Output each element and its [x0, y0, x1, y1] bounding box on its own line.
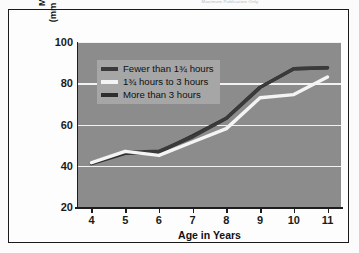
legend-label-1: 1¾ hours to 3 hours [123, 76, 208, 88]
x-axis-label: Age in Years [78, 229, 341, 241]
y-tick-label-60: 60 [47, 119, 73, 131]
x-tick-mark-11 [328, 208, 330, 213]
figure-container: Maximum Publication Only Mean Body Fat I… [0, 0, 359, 253]
x-tick-mark-5 [125, 208, 127, 213]
legend-label-2: More than 3 hours [123, 89, 201, 101]
x-tick-mark-4 [91, 208, 93, 213]
x-tick-label-4: 4 [88, 214, 94, 226]
y-axis-label-line1: Mean Body Fat Index [37, 0, 49, 6]
legend-item-0[interactable]: Fewer than 1¾ hours [101, 63, 214, 75]
x-tick-label-7: 7 [190, 214, 196, 226]
page-header-note: Maximum Publication Only [170, 0, 290, 7]
x-tick-mark-9 [260, 208, 262, 213]
y-tick-label-40: 40 [47, 160, 73, 172]
y-tick-label-20: 20 [47, 201, 73, 213]
y-tick-label-80: 80 [47, 77, 73, 89]
x-tick-label-8: 8 [223, 214, 229, 226]
figure-frame: Mean Body Fat Index (mm of fat at five b… [8, 9, 349, 243]
x-tick-label-11: 11 [322, 214, 334, 226]
legend-swatch-icon-0 [101, 67, 118, 70]
x-tick-label-10: 10 [288, 214, 300, 226]
x-tick-mark-7 [193, 208, 195, 213]
x-tick-mark-6 [159, 208, 161, 213]
x-tick-label-9: 9 [257, 214, 263, 226]
x-tick-mark-8 [226, 208, 228, 213]
plot-area: Fewer than 1¾ hours1¾ hours to 3 hoursMo… [78, 42, 341, 207]
chart-legend: Fewer than 1¾ hours1¾ hours to 3 hoursMo… [97, 60, 220, 104]
x-tick-label-5: 5 [122, 214, 128, 226]
x-tick-mark-10 [294, 208, 296, 213]
x-tick-label-6: 6 [156, 214, 162, 226]
x-axis-ticks: 4567891011 [78, 208, 341, 230]
y-axis-ticks: 20406080100 [45, 42, 73, 207]
legend-item-2[interactable]: More than 3 hours [101, 89, 214, 101]
legend-swatch-icon-1 [101, 80, 118, 83]
legend-item-1[interactable]: 1¾ hours to 3 hours [101, 76, 214, 88]
legend-swatch-icon-2 [101, 93, 118, 96]
legend-label-0: Fewer than 1¾ hours [123, 63, 214, 75]
y-tick-label-100: 100 [47, 36, 73, 48]
